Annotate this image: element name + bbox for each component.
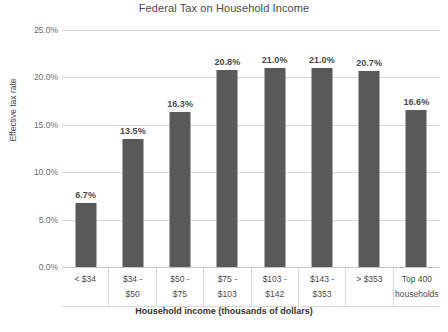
x-category-line: $75 - [204, 272, 250, 287]
y-tick-label: 0.0% [12, 262, 58, 272]
bar-value-label: 6.7% [75, 190, 96, 200]
bar-group: 6.7% [62, 30, 109, 267]
chart-title: Federal Tax on Household Income [0, 2, 448, 14]
x-category-line: $143 - [299, 272, 345, 287]
bar-value-label: 16.3% [167, 99, 193, 109]
bar[interactable] [264, 68, 285, 267]
x-category-cell: $34 -$50 [109, 268, 156, 306]
bar-group: 16.6% [393, 30, 440, 267]
x-category-cell: $103 -$142 [252, 268, 299, 306]
y-tick-label: 10.0% [12, 167, 58, 177]
bar[interactable] [170, 112, 191, 267]
x-category-line: > $353 [346, 272, 392, 287]
x-category-cell: $50 -$75 [157, 268, 204, 306]
bar-group: 21.0% [251, 30, 298, 267]
x-category-cell: $143 -$353 [299, 268, 346, 306]
x-category-line: households [395, 287, 438, 302]
x-category-cell: < $34 [62, 268, 109, 306]
x-axis-title: Household income (thousands of dollars) [0, 306, 448, 316]
bar-value-label: 20.8% [215, 57, 241, 67]
bar[interactable] [217, 70, 238, 267]
x-category-line: $75 [173, 287, 187, 302]
bar[interactable] [75, 203, 96, 267]
x-category-line: $50 [125, 287, 139, 302]
x-category-line: < $34 [62, 272, 108, 287]
x-category-cell: $75 -$103 [204, 268, 251, 306]
bar-group: 21.0% [298, 30, 345, 267]
y-tick-label: 25.0% [12, 25, 58, 35]
x-category-cell: > $353 [346, 268, 393, 306]
plot-area: 6.7%13.5%16.3%20.8%21.0%21.0%20.7%16.6% [62, 30, 440, 267]
bar[interactable] [359, 71, 380, 267]
x-category-line: $34 - [109, 272, 155, 287]
bar-value-label: 20.7% [356, 58, 382, 68]
x-axis-category-labels: < $34$34 -$50$50 -$75$75 -$103$103 -$142… [62, 267, 440, 307]
bar-chart: Federal Tax on Household Income Effectiv… [0, 0, 448, 332]
bar[interactable] [311, 68, 332, 267]
x-category-line: $50 - [157, 272, 203, 287]
bar-value-label: 13.5% [120, 126, 146, 136]
bar-group: 13.5% [109, 30, 156, 267]
bar[interactable] [122, 139, 143, 267]
y-tick-label: 20.0% [12, 72, 58, 82]
x-category-line: $142 [265, 287, 284, 302]
bar-group: 20.7% [346, 30, 393, 267]
y-tick-label: 5.0% [12, 215, 58, 225]
bar-value-label: 16.6% [404, 97, 430, 107]
bar-value-label: 21.0% [262, 55, 288, 65]
y-tick-label: 15.0% [12, 120, 58, 130]
x-category-line: $103 [218, 287, 237, 302]
x-category-cell: Top 400households [394, 268, 440, 306]
bar[interactable] [406, 110, 427, 267]
x-category-line: $353 [313, 287, 332, 302]
bar-group: 16.3% [157, 30, 204, 267]
x-category-line: $103 - [252, 272, 298, 287]
y-axis-tick-labels: 25.0%20.0%15.0%10.0%5.0%0.0% [0, 0, 58, 332]
x-category-line: Top 400 [394, 272, 440, 287]
bar-group: 20.8% [204, 30, 251, 267]
bar-value-label: 21.0% [309, 55, 335, 65]
bars-layer: 6.7%13.5%16.3%20.8%21.0%21.0%20.7%16.6% [62, 30, 440, 267]
